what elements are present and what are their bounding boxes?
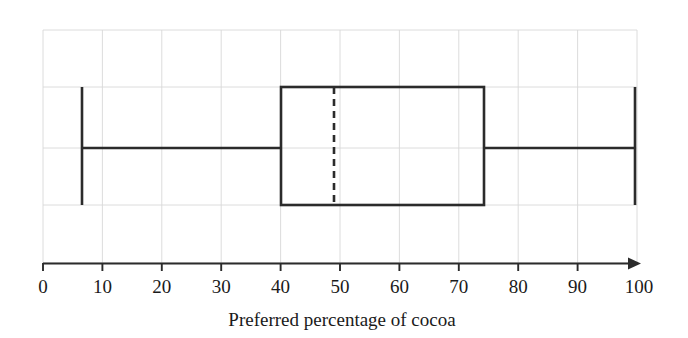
boxplot-svg: 0 10 20 30 40 50 60 70 80 90 100 Preferr… bbox=[0, 0, 688, 338]
axis-tick-label: 10 bbox=[93, 276, 112, 297]
axis-tick-label: 90 bbox=[568, 276, 587, 297]
axis-tick-label: 70 bbox=[449, 276, 468, 297]
axis-tick-label: 60 bbox=[390, 276, 409, 297]
axis-tick-label: 0 bbox=[38, 276, 48, 297]
axis-tick-label: 80 bbox=[509, 276, 528, 297]
boxplot-figure: 0 10 20 30 40 50 60 70 80 90 100 Preferr… bbox=[0, 0, 688, 338]
axis-tick-label: 100 bbox=[625, 276, 654, 297]
axis-tick-label: 40 bbox=[271, 276, 290, 297]
axis-tick-label: 30 bbox=[212, 276, 231, 297]
axis-tick-label: 20 bbox=[152, 276, 171, 297]
x-axis-label: Preferred percentage of cocoa bbox=[228, 309, 456, 330]
axis-tick-label: 50 bbox=[331, 276, 350, 297]
